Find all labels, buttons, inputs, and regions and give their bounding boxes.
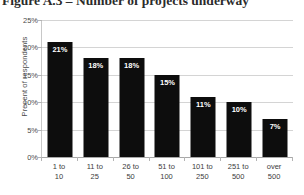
y-axis-tick-label: 5% bbox=[14, 125, 38, 134]
x-axis-category-label: 11 to25 bbox=[77, 162, 113, 182]
x-axis-category-label-line: 1 to bbox=[41, 162, 77, 172]
x-axis-tick-mark bbox=[77, 157, 78, 161]
bar-slot: 18% bbox=[114, 20, 150, 157]
x-axis-category-label-line: 101 to bbox=[184, 162, 220, 172]
x-axis-category-label-line: 500 bbox=[256, 172, 292, 182]
x-axis-category-label-line: 25 bbox=[77, 172, 113, 182]
bar[interactable]: 10% bbox=[227, 102, 252, 157]
y-axis-tick-label: 15% bbox=[14, 70, 38, 79]
x-axis-category-label-line: 51 to bbox=[149, 162, 185, 172]
x-axis-category-label-line: 500 bbox=[220, 172, 256, 182]
bar-series: 21%18%18%15%11%10%7% bbox=[42, 20, 293, 157]
x-axis-tick-mark bbox=[256, 157, 257, 161]
bar-value-label: 10% bbox=[227, 105, 252, 114]
x-axis-tick-mark bbox=[113, 157, 114, 161]
bar-value-label: 11% bbox=[191, 100, 216, 109]
bar-value-label: 21% bbox=[47, 45, 72, 54]
bar[interactable]: 18% bbox=[83, 58, 108, 157]
x-axis-category-label: over500 bbox=[256, 162, 292, 182]
x-axis-tick-mark bbox=[41, 157, 42, 161]
x-axis-category-label-line: 50 bbox=[113, 172, 149, 182]
x-axis-category-label: 1 to10 bbox=[41, 162, 77, 182]
figure-title: Figure A.3 – Number of projects underway bbox=[2, 0, 302, 8]
x-axis-category-label: 26 to50 bbox=[113, 162, 149, 182]
bar-chart: Precent of respondents 0%5%10%15%20%25% … bbox=[0, 12, 304, 195]
x-axis-category-label: 251 to500 bbox=[220, 162, 256, 182]
bar-value-label: 7% bbox=[263, 122, 288, 131]
bar-value-label: 18% bbox=[83, 61, 108, 70]
bar[interactable]: 21% bbox=[47, 42, 72, 157]
y-axis-tick-labels: 0%5%10%15%20%25% bbox=[14, 12, 38, 158]
x-axis-category-label: 51 to100 bbox=[149, 162, 185, 182]
x-axis-category-labels: 1 to1011 to2526 to5051 to100101 to250251… bbox=[41, 162, 292, 192]
x-axis-tick-mark bbox=[149, 157, 150, 161]
bar[interactable]: 7% bbox=[263, 119, 288, 157]
bar-slot: 21% bbox=[42, 20, 78, 157]
y-axis-tick-label: 0% bbox=[14, 153, 38, 162]
x-axis-tick-mark bbox=[292, 157, 293, 161]
x-axis-category-label-line: 251 to bbox=[220, 162, 256, 172]
x-axis-category-label: 101 to250 bbox=[184, 162, 220, 182]
x-axis-category-label-line: 11 to bbox=[77, 162, 113, 172]
bar[interactable]: 11% bbox=[191, 97, 216, 157]
x-axis-category-label-line: over bbox=[256, 162, 292, 172]
bar-value-label: 15% bbox=[155, 78, 180, 87]
x-axis-category-label-line: 100 bbox=[149, 172, 185, 182]
x-axis-tick-mark bbox=[184, 157, 185, 161]
x-axis-category-label-line: 250 bbox=[184, 172, 220, 182]
x-axis-category-label-line: 26 to bbox=[113, 162, 149, 172]
bar-value-label: 18% bbox=[119, 61, 144, 70]
bar-slot: 18% bbox=[78, 20, 114, 157]
x-axis-category-label-line: 10 bbox=[41, 172, 77, 182]
plot-area: 21%18%18%15%11%10%7% bbox=[41, 20, 293, 157]
x-axis-tick-mark bbox=[220, 157, 221, 161]
bar[interactable]: 15% bbox=[155, 75, 180, 157]
y-axis-tick-label: 25% bbox=[14, 16, 38, 25]
y-axis-tick-label: 20% bbox=[14, 43, 38, 52]
bar-slot: 7% bbox=[257, 20, 293, 157]
bar-slot: 10% bbox=[221, 20, 257, 157]
bar[interactable]: 18% bbox=[119, 58, 144, 157]
bar-slot: 15% bbox=[150, 20, 186, 157]
bar-slot: 11% bbox=[185, 20, 221, 157]
y-axis-tick-label: 10% bbox=[14, 98, 38, 107]
